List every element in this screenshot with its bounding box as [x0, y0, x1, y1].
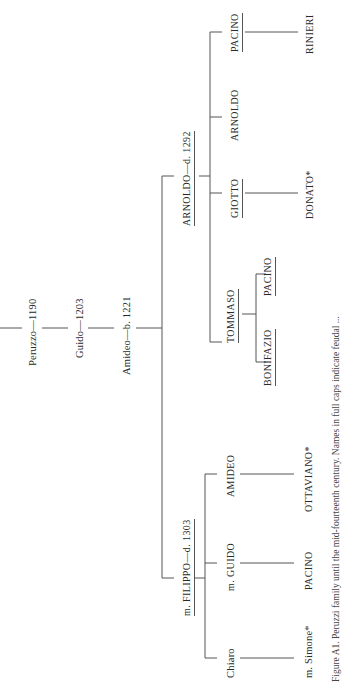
grandchild-rinieri: RINIERI [304, 15, 316, 54]
grandchild-m-simone: m. Simone* [303, 625, 315, 678]
grandchild-ottaviano: OTTAVIANO* [303, 446, 315, 512]
child-arnoldo: ARNOLDO [229, 89, 241, 141]
child-amideo: AMIDEO [225, 455, 237, 497]
child-giotto: GIOTTO [229, 179, 243, 218]
grandchild-pacino-guido: PACINO [303, 551, 315, 590]
grandchild-bonifazio: BONIFAZIO [262, 329, 276, 386]
child-tommaso: TOMMASO [225, 289, 239, 343]
ancestor-peruzzo: Peruzzo—1190 [27, 299, 39, 366]
child-chiaro: Chiaro [225, 648, 237, 678]
child-m-guido: m. GUIDO [225, 543, 237, 591]
filippo-head: m. FILIPPO—d. 1303 [181, 519, 195, 616]
arnoldo-head: ARNOLDO—d. 1292 [181, 131, 195, 226]
grandchild-pacino-tommaso: PACINO [262, 257, 276, 296]
ancestor-amideo: Amideo—b. 1221 [121, 296, 133, 375]
ancestor-guido: Guido—1203 [74, 298, 86, 358]
grandchild-donato: DONATO* [304, 170, 316, 219]
figure-caption: Figure A1. Peruzzi family until the mid-… [331, 316, 342, 682]
child-pacino: PACINO [229, 13, 243, 52]
